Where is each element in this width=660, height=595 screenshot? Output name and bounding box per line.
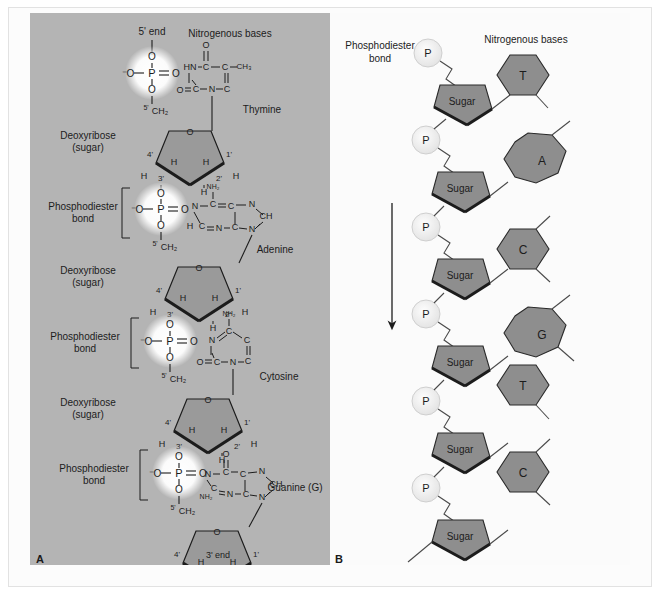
hydrogen-atom: H [150, 307, 157, 317]
panel-a-drawing: 5' end Nitrogenous bases O ⁻O P O O 5' C… [30, 13, 330, 565]
carbon-1-prime-label: 1' [244, 418, 250, 427]
deoxyribose-ring [156, 131, 224, 185]
hydrogen-atom: H [210, 323, 217, 333]
phosphodiester-bond-sublabel: bond [74, 343, 96, 354]
base-stub [536, 216, 550, 229]
oxygen-minus-atom: ⁻O [140, 336, 153, 347]
sugar-label: Sugar [447, 183, 474, 194]
base-letter: A [538, 154, 546, 168]
carbon-1-prime-label: 1' [226, 150, 232, 159]
base-stub [536, 439, 550, 452]
ch-group: CH [260, 211, 273, 221]
nitrogen-atom: N [205, 469, 212, 479]
base-stub [536, 492, 550, 505]
oxygen-atom: O [157, 188, 165, 199]
hydrogen-atom: H [203, 157, 210, 167]
carbon-2-prime-label: 2' [234, 442, 240, 451]
oxygen-atom: O [181, 204, 189, 215]
phosphate-label: P [422, 482, 429, 494]
ch3-group: CH₃ [237, 62, 252, 71]
deoxyribose-label: Deoxyribose [60, 265, 116, 276]
phosphorus-atom: P [148, 67, 155, 79]
carbon-5-prime-label: 5' [143, 104, 148, 111]
base-purine-fused-ring [504, 133, 566, 183]
phosphodiester-bond-label: Phosphodiester [50, 331, 120, 342]
hydrogen-atom: H [187, 221, 194, 231]
nitrogen-atom: N [259, 492, 266, 502]
carbon-atom: C [223, 467, 230, 477]
oxygen-atom: O [148, 51, 156, 62]
nh2-group: NH₂ [200, 493, 213, 500]
nitrogenous-bases-header-a: Nitrogenous bases [188, 28, 271, 39]
base-stub [558, 347, 574, 361]
oxygen-atom: O [148, 84, 156, 95]
sugar-base-linker [490, 269, 508, 283]
hydrogen-atom: H [221, 425, 228, 435]
phosphodiester-bond-label-b: Phosphodiester [345, 40, 415, 51]
carbon-atom: C [224, 84, 231, 94]
oxygen-atom: O [196, 357, 203, 367]
nitrogen-atom: N [249, 224, 256, 234]
base-purine-fused-ring [504, 307, 566, 357]
nitrogen-atom: N [192, 201, 199, 211]
base-name-label: Thymine [243, 104, 282, 115]
sugar-label: Sugar [447, 270, 474, 281]
carbon-5-prime-label: 5' [170, 504, 175, 511]
carbon-atom: C [193, 84, 200, 94]
base-name-label: Guanine (G) [267, 482, 322, 493]
phosphodiester-bond-sublabel: bond [72, 213, 94, 224]
carbon-atom: C [240, 469, 247, 479]
carbon-4-prime-label: 4' [147, 150, 153, 159]
ring-oxygen: O [213, 527, 220, 537]
figure-root: 5' end Nitrogenous bases O ⁻O P O O 5' C… [0, 0, 660, 595]
carbon-atom: C [211, 483, 218, 493]
phosphodiester-bracket [131, 318, 139, 368]
hydrogen-atom: H [212, 293, 219, 303]
phosphodiester-bond-label: Phosphodiester [59, 463, 129, 474]
base-stub [552, 121, 570, 135]
nitrogen-atom: N [209, 84, 216, 94]
oxygen-atom: O [172, 68, 180, 79]
ring-oxygen: O [204, 395, 211, 405]
nitrogen-atom: N [249, 199, 256, 209]
carbon-3-prime-label: 3' [158, 174, 164, 183]
hydrogen-atom: H [159, 439, 166, 449]
oxygen-atom: O [166, 352, 174, 363]
nitrogen-atom: N [259, 466, 266, 476]
carbon-atom: C [222, 62, 229, 72]
base-stub [552, 295, 570, 309]
hydrogen-atom: H [189, 425, 196, 435]
hydrogen-atom: H [233, 171, 240, 181]
sugar-phosphate-linker [434, 206, 444, 216]
carbon-2-prime-label: 2' [216, 174, 222, 183]
deoxyribose-ring [174, 399, 242, 453]
ch2-group: CH₂ [170, 374, 187, 384]
ch2-group: CH₂ [179, 506, 196, 516]
sugar-phosphate-linker [434, 467, 444, 477]
ch2-group: CH₂ [152, 106, 169, 116]
base-letter: T [519, 69, 527, 83]
oxygen-minus-atom: ⁻O [122, 68, 135, 79]
oxygen-atom: O [222, 449, 229, 459]
oxygen-atom: O [176, 85, 183, 95]
hydrogen-atom: H [171, 157, 178, 167]
carbon-atom: C [228, 201, 235, 211]
deoxyribose-sublabel: (sugar) [72, 409, 104, 420]
nitrogen-atom: N [209, 335, 216, 345]
base-letter: T [519, 379, 527, 393]
carbon-atom: C [210, 199, 217, 209]
deoxyribose-label: Deoxyribose [60, 397, 116, 408]
phosphate-label: P [424, 47, 431, 59]
hydrogen-atom: H [180, 293, 187, 303]
ring-oxygen: O [186, 127, 193, 137]
phosphorus-atom: P [166, 335, 173, 347]
sugar-base-linker [490, 443, 508, 457]
sugar-label: Sugar [447, 531, 474, 542]
phosphate-label: P [422, 395, 429, 407]
carbon-atom: C [245, 356, 252, 366]
panel-a-tag: A [36, 553, 44, 565]
sugar-base-linker [490, 530, 508, 544]
sugar-label: Sugar [447, 357, 474, 368]
oxygen-atom: O [166, 319, 174, 330]
base-letter: C [519, 466, 528, 480]
